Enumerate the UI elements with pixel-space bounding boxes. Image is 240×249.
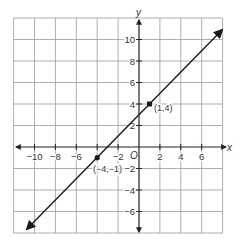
x-axis-label: x <box>226 142 233 153</box>
svg-text:−10: −10 <box>26 151 42 162</box>
svg-text:6: 6 <box>130 77 135 88</box>
y-axis-label: y <box>135 7 142 18</box>
x-tick-labels: −10 −8 −6 −2 2 4 6 <box>26 151 204 162</box>
point-marker <box>95 155 100 160</box>
point-label: (1,4) <box>154 103 173 113</box>
svg-text:−2: −2 <box>113 151 124 162</box>
svg-text:10: 10 <box>124 34 135 45</box>
point-marker <box>147 102 152 107</box>
svg-text:2: 2 <box>157 151 162 162</box>
svg-text:8: 8 <box>130 56 135 67</box>
svg-text:−2: −2 <box>124 163 135 174</box>
svg-text:−8: −8 <box>50 151 61 162</box>
svg-text:6: 6 <box>199 151 204 162</box>
grid <box>14 18 223 233</box>
point-label: (−4,−1) <box>93 164 122 174</box>
origin-label: O <box>130 150 138 161</box>
graph-line <box>27 30 222 229</box>
svg-text:−4: −4 <box>124 185 135 196</box>
svg-text:−6: −6 <box>124 206 135 217</box>
svg-text:4: 4 <box>130 99 135 110</box>
svg-text:−6: −6 <box>71 151 82 162</box>
coordinate-plane: x y O −10 −8 −6 −2 2 4 6 10 8 6 4 2 −2 −… <box>0 0 240 249</box>
point-1-4: (1,4) <box>147 102 173 114</box>
svg-text:4: 4 <box>178 151 183 162</box>
